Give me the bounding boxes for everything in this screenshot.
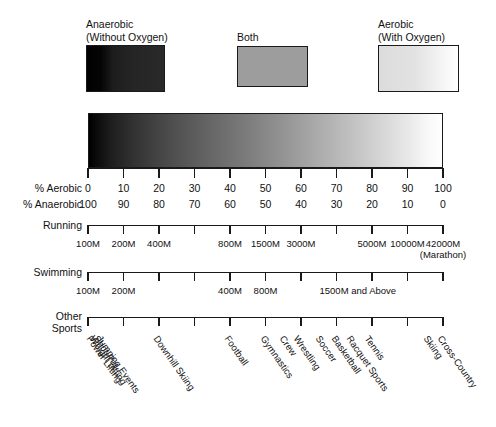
swimming-axis [88,272,443,273]
scale-value: 90 [402,182,414,194]
axis-tick [407,168,408,178]
axis-tick [407,272,408,281]
distance-label: 200M [112,238,136,249]
axis-tick [229,272,230,281]
distance-label: 3000M [286,238,315,249]
axis-tick [371,272,372,281]
scale-value: 0 [85,182,91,194]
scale-value: 100 [434,182,452,194]
other-sports-axis [88,317,443,318]
axis-tick [265,272,266,281]
percent-aerobic-label: % Aerobic [35,182,82,194]
axis-tick [123,317,124,326]
legend-aerobic-swatch [378,45,459,92]
axis-tick [442,272,443,281]
axis-tick [371,225,372,234]
distance-label: 1500M [251,238,280,249]
scale-value: 20 [366,198,378,210]
distance-sublabel: (Marathon) [420,249,466,260]
distance-label: 100M [76,238,100,249]
axis-tick [265,168,266,178]
distance-label: 400M [147,238,171,249]
legend-anaerobic-line1: Anaerobic [86,18,168,31]
axis-tick [158,225,159,234]
scale-value: 20 [153,182,165,194]
axis-tick [407,225,408,234]
axis-tick [336,317,337,326]
legend-aerobic: Aerobic (With Oxygen) [378,18,459,92]
scale-value: 30 [331,198,343,210]
distance-label: 400M [218,285,242,296]
scale-value: 10 [118,182,130,194]
distance-label: 42000M [426,238,460,249]
axis-tick [194,317,195,326]
running-label: Running [43,219,82,231]
distance-label: 5000M [357,238,386,249]
axis-tick [265,225,266,234]
legend-anaerobic-line2: (Without Oxygen) [86,31,168,44]
axis-tick [194,168,195,178]
scale-value: 50 [260,198,272,210]
scale-value: 30 [189,182,201,194]
legend-both-swatch [237,46,308,87]
scale-value: 80 [153,198,165,210]
axis-tick [123,225,124,234]
distance-label: 800M [254,285,278,296]
percent-axis [88,168,443,169]
axis-tick [407,317,408,326]
axis-tick [158,272,159,281]
scale-value: 60 [224,198,236,210]
scale-value: 40 [295,198,307,210]
axis-tick [87,272,88,281]
energy-system-continuum-chart: Anaerobic (Without Oxygen) Both Aerobic … [0,0,496,427]
legend-aerobic-line1: Aerobic [378,18,459,31]
other-sports-label-line1: Other [56,310,82,322]
axis-tick [87,225,88,234]
axis-tick [371,317,372,326]
legend-anaerobic-swatch [86,45,165,92]
scale-value: 70 [189,198,201,210]
axis-tick [300,272,301,281]
scale-value: 80 [366,182,378,194]
running-axis [88,225,443,226]
other-sports-label-line2: Sports [52,322,82,334]
distance-label: 200M [112,285,136,296]
axis-tick [336,225,337,234]
axis-tick [300,168,301,178]
sport-label: Cross-Country [435,333,479,389]
scale-value: 40 [224,182,236,194]
axis-tick [336,168,337,178]
scale-value: 10 [402,198,414,210]
axis-tick [229,317,230,326]
axis-tick [87,168,88,178]
scale-value: 0 [440,198,446,210]
axis-tick [229,225,230,234]
legend-both: Both [237,31,308,87]
swimming-label: Swimming [34,266,82,278]
axis-tick [194,272,195,281]
legend-both-line1: Both [237,31,308,44]
sport-label: Downhill Skiing [151,333,197,392]
axis-tick [229,168,230,178]
axis-tick [300,225,301,234]
axis-tick [123,168,124,178]
axis-tick [123,272,124,281]
axis-tick [300,317,301,326]
axis-tick [158,168,159,178]
distance-label: 10000M [390,238,424,249]
axis-tick [336,272,337,281]
aerobic-anaerobic-gradient-bar [88,113,443,168]
scale-value: 50 [260,182,272,194]
axis-tick [442,168,443,178]
axis-tick [194,225,195,234]
axis-tick [265,317,266,326]
scale-value: 90 [118,198,130,210]
axis-tick [371,168,372,178]
percent-anaerobic-label: % Anaerobic [23,198,82,210]
axis-tick [158,317,159,326]
scale-value: 70 [331,182,343,194]
legend-anaerobic: Anaerobic (Without Oxygen) [86,18,168,92]
axis-tick [442,225,443,234]
scale-value: 60 [295,182,307,194]
axis-tick [442,317,443,326]
